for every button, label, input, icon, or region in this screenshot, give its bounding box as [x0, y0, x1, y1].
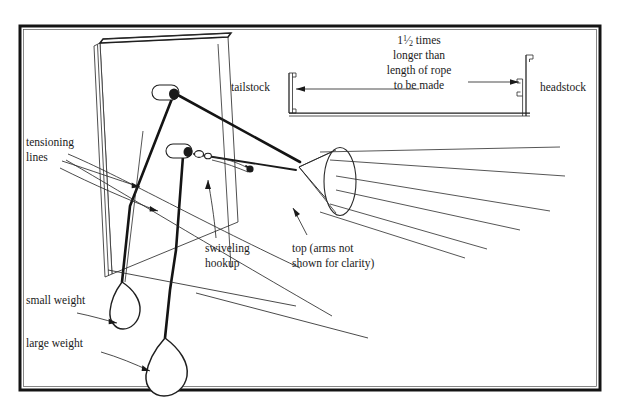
dimension-note-line2: longer than [393, 49, 445, 62]
headstock-bracket [517, 55, 533, 116]
dimension-inset: 11⁄2 times longer than length of rope to… [231, 34, 586, 117]
small-weight-label: small weight [26, 294, 86, 307]
board-panel [94, 33, 238, 277]
top-cone [299, 148, 356, 216]
lower-cleat [166, 144, 193, 158]
upper-cleat [152, 85, 179, 100]
figure-page: 11⁄2 times longer than length of rope to… [0, 0, 617, 419]
svg-text:11⁄2 times: 11⁄2 times [397, 34, 441, 48]
headstock-label: headstock [540, 81, 586, 93]
dimension-note-line4: to be made [394, 79, 444, 91]
large-weight-label: large weight [26, 337, 84, 350]
tailstock-label: tailstock [231, 81, 270, 93]
swiveling-hookup-label-line2: hookup [205, 257, 240, 270]
ropemaking-diagram: 11⁄2 times longer than length of rope to… [0, 0, 617, 419]
dimension-note-line3: length of rope [387, 64, 452, 77]
top-note-label-line1: top (arms not [292, 242, 354, 255]
swiveling-hookup-label-line1: swiveling [205, 242, 250, 255]
dimension-note-line1-suffix: times [413, 34, 441, 46]
dimension-note-text: 11⁄2 times longer than length of rope to… [387, 34, 452, 92]
large-weight-shape [146, 338, 187, 396]
top-note-label-line2: shown for clarity) [292, 257, 375, 270]
rope-strands [320, 147, 565, 258]
tensioning-lines-label-line1: tensioning [26, 136, 74, 149]
tensioning-lines-label-line2: lines [26, 151, 48, 163]
